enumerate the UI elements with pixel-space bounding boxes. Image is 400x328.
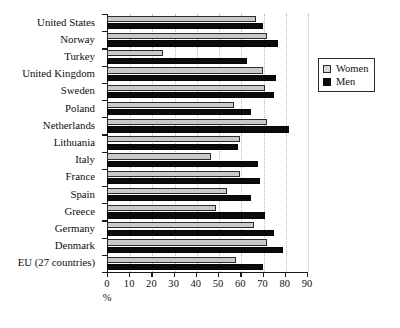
x-axis-line xyxy=(107,272,308,273)
chart-legend: Women Men xyxy=(318,58,375,92)
category-label: Turkey xyxy=(64,51,95,62)
bar-women xyxy=(107,50,163,56)
category-label: Lithuania xyxy=(54,137,95,148)
category-label: Greece xyxy=(64,206,95,217)
x-tick-90 xyxy=(307,272,308,277)
legend-item-women: Women xyxy=(323,62,368,75)
bar-men xyxy=(107,178,260,184)
x-tick-10 xyxy=(129,272,130,277)
x-tick-30 xyxy=(174,272,175,277)
bar-men xyxy=(107,195,251,201)
employment-rate-bar-chart: 0102030405060708090United StatesNorwayTu… xyxy=(0,0,400,328)
bar-women xyxy=(107,102,234,108)
bar-men xyxy=(107,247,283,253)
bar-men xyxy=(107,230,274,236)
bar-women xyxy=(107,153,211,159)
bar-women xyxy=(107,16,256,22)
bar-men xyxy=(107,58,247,64)
x-tick-label-90: 90 xyxy=(292,278,322,289)
bar-men xyxy=(107,126,289,132)
category-label: United Kingdom xyxy=(22,68,95,79)
x-tick-0 xyxy=(107,272,108,277)
bar-men xyxy=(107,109,251,115)
bar-men xyxy=(107,144,238,150)
bar-women xyxy=(107,171,240,177)
category-label: Italy xyxy=(75,154,95,165)
legend-label-women: Women xyxy=(336,62,368,75)
category-label: EU (27 countries) xyxy=(18,257,95,268)
category-label: Norway xyxy=(60,34,95,45)
category-label: Sweden xyxy=(61,85,95,96)
bar-women xyxy=(107,85,265,91)
bar-women xyxy=(107,33,267,39)
legend-item-men: Men xyxy=(323,75,368,88)
bar-women xyxy=(107,257,236,263)
category-label: Netherlands xyxy=(43,120,95,131)
y-tick-14 xyxy=(102,272,107,273)
bar-women xyxy=(107,119,267,125)
category-label: Poland xyxy=(65,103,95,114)
bar-women xyxy=(107,239,267,245)
bar-men xyxy=(107,40,278,46)
bar-men xyxy=(107,23,263,29)
gridline-90 xyxy=(308,14,310,272)
bar-men xyxy=(107,92,274,98)
x-tick-80 xyxy=(285,272,286,277)
category-label: Denmark xyxy=(55,240,95,251)
x-tick-40 xyxy=(196,272,197,277)
bar-women xyxy=(107,205,216,211)
bar-women xyxy=(107,136,240,142)
x-axis-title: % xyxy=(0,292,400,303)
x-tick-70 xyxy=(263,272,264,277)
bar-women xyxy=(107,67,263,73)
x-tick-20 xyxy=(151,272,152,277)
gridline-80 xyxy=(286,14,288,272)
bar-men xyxy=(107,264,263,270)
bar-men xyxy=(107,212,265,218)
category-label: France xyxy=(66,171,95,182)
bar-women xyxy=(107,188,227,194)
x-axis-title-text: % xyxy=(103,292,112,303)
category-label: United States xyxy=(37,17,95,28)
bar-women xyxy=(107,222,254,228)
bar-men xyxy=(107,75,276,81)
x-tick-50 xyxy=(218,272,219,277)
bar-men xyxy=(107,161,258,167)
category-label: Spain xyxy=(70,189,95,200)
figure-caption xyxy=(14,318,314,328)
category-label: Germany xyxy=(55,223,95,234)
x-tick-60 xyxy=(240,272,241,277)
legend-swatch-women-icon xyxy=(323,65,331,73)
legend-label-men: Men xyxy=(336,75,355,88)
legend-swatch-men-icon xyxy=(323,78,331,86)
